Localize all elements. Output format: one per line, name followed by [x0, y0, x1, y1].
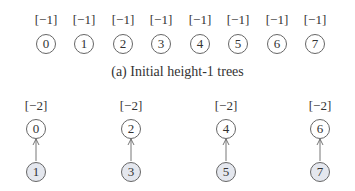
root-label: [−2]: [309, 98, 332, 114]
tree-child-node: 1: [26, 162, 46, 182]
tree-child-node: 3: [121, 162, 141, 182]
root-label: [−2]: [25, 98, 48, 114]
tree-root-node: 2: [121, 119, 141, 139]
tree-child-node: 7: [310, 162, 330, 182]
edges: [0, 0, 355, 191]
root-label: [−2]: [215, 98, 238, 114]
tree-root-node: 0: [26, 119, 46, 139]
root-label: [−2]: [120, 98, 143, 114]
tree-child-node: 5: [216, 162, 236, 182]
tree-root-node: 4: [216, 119, 236, 139]
tree-root-node: 6: [310, 119, 330, 139]
